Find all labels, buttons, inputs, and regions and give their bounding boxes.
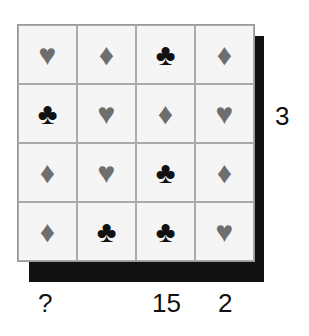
- row-2-sum-label: 3: [275, 101, 289, 132]
- diamond-icon: ♦: [40, 158, 55, 188]
- grid-cell: ♣: [136, 143, 195, 202]
- club-icon: ♣: [97, 217, 117, 247]
- grid-cell: ♦: [77, 25, 136, 84]
- grid-cell: ♣: [136, 25, 195, 84]
- grid-cell: ♥: [77, 84, 136, 143]
- grid-cell: ♦: [18, 202, 77, 261]
- diamond-icon: ♦: [40, 217, 55, 247]
- heart-icon: ♥: [216, 99, 234, 129]
- grid-cell: ♥: [77, 143, 136, 202]
- column-4-sum-label: 2: [218, 288, 232, 319]
- grid-cell: ♦: [18, 143, 77, 202]
- club-icon: ♣: [156, 217, 176, 247]
- heart-icon: ♥: [98, 158, 116, 188]
- diamond-icon: ♦: [217, 40, 232, 70]
- symbol-grid: ♥♦♣♦♣♥♦♥♦♥♣♦♦♣♣♥: [17, 24, 255, 262]
- grid-cell: ♣: [136, 202, 195, 261]
- heart-icon: ♥: [216, 217, 234, 247]
- grid-cell: ♥: [18, 25, 77, 84]
- diamond-icon: ♦: [158, 99, 173, 129]
- diamond-icon: ♦: [217, 158, 232, 188]
- grid-cell: ♦: [136, 84, 195, 143]
- grid-cell: ♣: [77, 202, 136, 261]
- heart-icon: ♥: [39, 40, 57, 70]
- club-icon: ♣: [156, 158, 176, 188]
- grid-cell: ♥: [195, 202, 254, 261]
- heart-icon: ♥: [98, 99, 116, 129]
- grid-cell: ♣: [18, 84, 77, 143]
- grid-cell: ♦: [195, 25, 254, 84]
- column-3-sum-label: 15: [152, 288, 181, 319]
- club-icon: ♣: [38, 99, 58, 129]
- diamond-icon: ♦: [99, 40, 114, 70]
- grid-cell: ♦: [195, 143, 254, 202]
- grid-cell: ♥: [195, 84, 254, 143]
- column-1-sum-label: ?: [38, 288, 52, 319]
- club-icon: ♣: [156, 40, 176, 70]
